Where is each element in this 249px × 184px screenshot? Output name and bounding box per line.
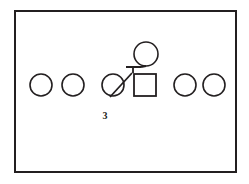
edge-label-3: 3 <box>103 110 108 121</box>
node-circle-top <box>134 42 158 66</box>
node-circle-1 <box>30 74 52 96</box>
outer-border <box>15 11 236 172</box>
node-circle-2 <box>62 74 84 96</box>
edge-stem-topcircle-to-square <box>126 67 141 73</box>
node-square <box>134 74 156 96</box>
node-circle-5 <box>203 74 225 96</box>
node-circle-4 <box>174 74 196 96</box>
diagram-figure: 3 <box>0 0 249 184</box>
diagram-canvas: 3 <box>0 0 249 184</box>
